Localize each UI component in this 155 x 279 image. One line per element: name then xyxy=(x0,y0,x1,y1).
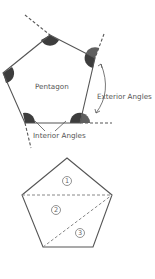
diagonal-slant xyxy=(43,195,112,247)
triangle-3-marker: 3 xyxy=(76,229,85,238)
pentagon-label: Pentagon xyxy=(35,82,69,91)
exterior-angle-arrow xyxy=(96,64,105,113)
triangle-2-number: 2 xyxy=(54,206,58,214)
pentagon-outline xyxy=(3,35,95,123)
extension-line-top xyxy=(25,15,50,35)
interior-angles-label: Interior Angles xyxy=(33,131,86,140)
pentagon-angles-diagram: Pentagon Exterior Angles Interior Angles… xyxy=(0,0,155,279)
triangle-3-number: 3 xyxy=(78,229,82,237)
triangle-1-marker: 1 xyxy=(63,177,72,186)
triangle-1-number: 1 xyxy=(65,177,69,185)
bottom-pentagon-group: 1 2 3 xyxy=(22,158,112,247)
exterior-arrowhead-top xyxy=(98,64,102,68)
triangle-2-marker: 2 xyxy=(52,206,61,215)
extension-line-left xyxy=(25,123,31,148)
exterior-angles-label: Exterior Angles xyxy=(97,92,152,101)
top-pentagon-group: Pentagon Exterior Angles Interior Angles xyxy=(3,15,152,148)
interior-angle-left xyxy=(3,67,14,83)
triangulated-pentagon-outline xyxy=(22,158,112,247)
